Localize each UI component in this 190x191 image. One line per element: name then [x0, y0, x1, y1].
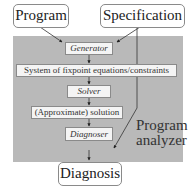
program-analyzer-label: Program analyzer	[136, 118, 186, 148]
program-analysis-diagram: Program Specification Generator System o…	[0, 0, 190, 191]
specification-input-node: Specification	[100, 4, 185, 28]
diagnosis-output-node: Diagnosis	[58, 162, 122, 186]
solver-node: Solver	[67, 85, 111, 98]
generator-node: Generator	[65, 42, 113, 55]
edge-spec-diagnoser	[114, 27, 137, 148]
analyzer-label-line2: analyzer	[136, 133, 186, 148]
analyzer-label-line1: Program	[136, 118, 186, 133]
diagnoser-node: Diagnoser	[65, 127, 113, 141]
edge-spec-generator	[117, 27, 140, 42]
solution-node: (Approximate) solution	[31, 106, 123, 119]
edge-program-generator	[40, 27, 62, 42]
program-input-node: Program	[13, 4, 69, 28]
equations-node: System of fixpoint equations/constraints	[16, 64, 177, 77]
